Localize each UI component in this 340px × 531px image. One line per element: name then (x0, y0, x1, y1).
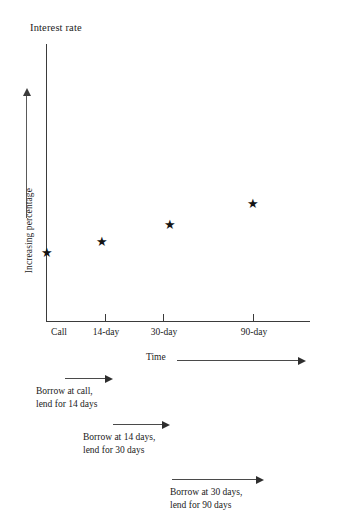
x-axis-caption: Time (146, 352, 166, 363)
x-tick-30-day (163, 314, 164, 321)
data-point-30-day: ★ (164, 218, 176, 231)
annotation-3-arrow-head (256, 476, 264, 484)
annotation-2: Borrow at 14 days, lend for 30 days (83, 431, 155, 457)
annotation-1-arrow-shaft (65, 378, 106, 379)
data-point-14-day: ★ (96, 235, 108, 248)
x-label-90-day: 90-day (241, 327, 267, 337)
data-point-90-day: ★ (247, 197, 259, 210)
annotation-1: Borrow at call, lend for 14 days (36, 385, 97, 411)
y-axis-line (46, 44, 47, 322)
x-label-14-day: 14-day (93, 327, 119, 337)
annotation-3-arrow-shaft (172, 479, 257, 480)
annotation-2-arrow-head (162, 421, 170, 429)
data-point-call: ★ (41, 246, 53, 259)
y-axis-label: Increasing percentage (24, 171, 35, 291)
x-axis-line (46, 321, 310, 322)
time-arrow-head (298, 357, 306, 365)
x-tick-90-day (253, 314, 254, 321)
annotation-2-line-1: Borrow at 14 days, (83, 432, 155, 442)
annotation-3-line-1: Borrow at 30 days, (170, 487, 242, 497)
x-label-30-day: 30-day (151, 327, 177, 337)
increasing-percentage-arrow-head (23, 88, 31, 96)
x-tick-14-day (105, 314, 106, 321)
annotation-1-line-1: Borrow at call, (36, 386, 93, 396)
annotation-3-line-2: lend for 90 days (170, 499, 242, 512)
annotation-1-line-2: lend for 14 days (36, 398, 97, 411)
annotation-1-arrow-head (105, 375, 113, 383)
time-arrow-shaft (177, 360, 299, 361)
chart-title: Interest rate (30, 22, 82, 34)
annotation-3: Borrow at 30 days, lend for 90 days (170, 486, 242, 512)
interest-rate-term-structure-figure: Interest rate Increasing percentage Call… (0, 0, 340, 531)
annotation-2-arrow-shaft (113, 424, 163, 425)
x-label-call: Call (51, 327, 67, 337)
annotation-2-line-2: lend for 30 days (83, 444, 155, 457)
